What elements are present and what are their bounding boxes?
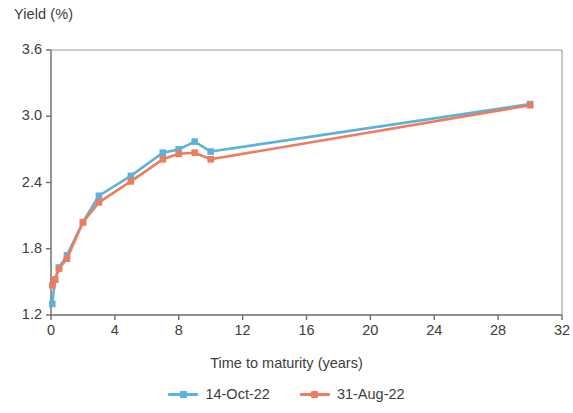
x-tick-label: 12 — [223, 322, 263, 338]
x-tick-label: 4 — [95, 322, 135, 338]
y-tick-label: 1.2 — [2, 306, 42, 322]
legend-item-series-0: 14-Oct-22 — [168, 386, 269, 402]
legend-swatch-series-0 — [168, 393, 198, 396]
legend-swatch-series-1 — [300, 393, 330, 396]
plot-area — [0, 0, 573, 413]
x-tick-label: 16 — [287, 322, 327, 338]
x-tick-label: 24 — [414, 322, 454, 338]
x-tick-label: 20 — [350, 322, 390, 338]
x-tick-label: 0 — [31, 322, 71, 338]
y-tick-label: 3.0 — [2, 107, 42, 123]
chart-legend: 14-Oct-22 31-Aug-22 — [0, 386, 573, 402]
legend-item-series-1: 31-Aug-22 — [300, 386, 405, 402]
y-tick-label: 3.6 — [2, 41, 42, 57]
legend-label-series-0: 14-Oct-22 — [205, 386, 269, 402]
x-tick-label: 32 — [542, 322, 573, 338]
x-tick-label: 8 — [159, 322, 199, 338]
y-axis-title: Yield (%) — [14, 6, 73, 22]
y-tick-label: 2.4 — [2, 174, 42, 190]
yield-curve-chart: Yield (%) Time to maturity (years) 1.21.… — [0, 0, 573, 413]
x-tick-label: 28 — [478, 322, 518, 338]
x-axis-title: Time to maturity (years) — [0, 355, 573, 371]
y-tick-label: 1.8 — [2, 240, 42, 256]
legend-label-series-1: 31-Aug-22 — [337, 386, 405, 402]
